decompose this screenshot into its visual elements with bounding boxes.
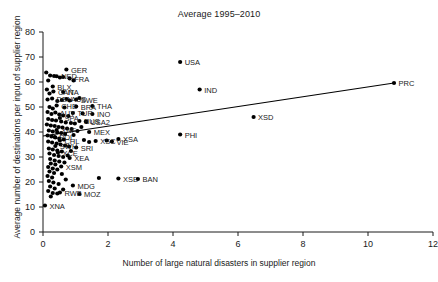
data-point xyxy=(49,112,53,116)
data-point xyxy=(53,162,57,166)
data-point xyxy=(53,158,57,162)
data-point xyxy=(49,123,53,127)
data-point xyxy=(50,175,54,179)
data-point xyxy=(178,132,182,136)
y-tick-label: 80 xyxy=(25,27,35,37)
data-point-label: RWB xyxy=(64,189,81,198)
data-point xyxy=(47,91,51,95)
data-point xyxy=(52,171,56,175)
data-point xyxy=(50,96,54,100)
y-tick-label: 60 xyxy=(25,77,35,87)
data-point-label: PHI xyxy=(185,131,198,140)
data-point xyxy=(82,138,86,142)
data-point-label: XSM xyxy=(66,163,82,172)
data-point-label: XSD xyxy=(258,113,274,122)
data-point xyxy=(47,151,51,155)
data-point xyxy=(53,135,57,139)
data-point xyxy=(50,140,54,144)
data-point xyxy=(48,184,52,188)
x-tick-label: 8 xyxy=(300,239,305,249)
x-tick-label: 0 xyxy=(40,239,45,249)
data-point xyxy=(392,81,396,85)
data-point xyxy=(44,70,48,74)
data-point xyxy=(60,172,64,176)
data-point xyxy=(57,159,61,163)
data-point xyxy=(97,176,101,180)
data-point xyxy=(64,177,68,181)
y-axis-label: Average number of destinations per input… xyxy=(12,7,22,247)
data-point xyxy=(51,106,55,110)
data-point xyxy=(46,117,50,121)
data-point xyxy=(116,176,120,180)
data-point xyxy=(45,97,49,101)
data-point xyxy=(57,182,61,186)
x-tick-label: 2 xyxy=(105,239,110,249)
data-point xyxy=(53,186,57,190)
data-point-label: XSC xyxy=(100,137,116,146)
data-point xyxy=(59,164,63,168)
data-point xyxy=(47,169,51,173)
y-tick-label: 70 xyxy=(25,52,35,62)
data-point-label: SPA xyxy=(64,114,78,123)
data-point xyxy=(54,118,58,122)
data-point xyxy=(43,203,47,207)
data-point-label: SRI xyxy=(81,144,94,153)
data-point xyxy=(53,110,57,114)
y-tick-label: 40 xyxy=(25,127,35,137)
data-point xyxy=(55,128,59,132)
data-point xyxy=(198,87,202,91)
x-tick-label: 6 xyxy=(235,239,240,249)
data-point xyxy=(47,128,51,132)
data-point xyxy=(46,189,50,193)
data-point xyxy=(45,110,49,114)
data-point xyxy=(47,179,51,183)
data-point xyxy=(57,154,61,158)
data-point xyxy=(51,89,55,93)
data-point-label: XNA xyxy=(49,202,64,211)
data-point xyxy=(45,133,49,137)
data-point xyxy=(45,122,49,126)
data-point xyxy=(64,67,68,71)
data-point xyxy=(47,146,51,150)
data-point-label: MOZ xyxy=(84,190,101,199)
data-point xyxy=(79,125,83,129)
y-tick-label: 10 xyxy=(25,202,35,212)
y-tick-label: 20 xyxy=(25,177,35,187)
data-point-label: BAN xyxy=(142,175,157,184)
data-point xyxy=(45,87,49,91)
data-point xyxy=(46,78,50,82)
data-point-label: XSA xyxy=(123,135,138,144)
y-tick-label: 30 xyxy=(25,152,35,162)
data-point xyxy=(58,190,62,194)
data-point xyxy=(46,165,50,169)
data-point xyxy=(48,157,52,161)
scatter-plot-figure: Average 1995–2010 0246810120102030405060… xyxy=(0,0,438,282)
data-point xyxy=(51,166,55,170)
data-point xyxy=(50,118,54,122)
data-point-label: XSE xyxy=(123,175,138,184)
data-point xyxy=(52,153,56,157)
data-point xyxy=(252,115,256,119)
data-point xyxy=(94,139,98,143)
plot-canvas: 02468101201020304050607080 GERNEDFRABLXC… xyxy=(0,0,438,282)
data-point-label: FRA xyxy=(74,75,89,84)
data-point xyxy=(87,130,91,134)
data-point xyxy=(49,161,53,165)
data-point xyxy=(51,84,55,88)
x-tick-label: 10 xyxy=(363,239,373,249)
y-tick-label: 0 xyxy=(30,227,35,237)
data-point xyxy=(46,139,50,143)
data-point xyxy=(55,103,59,107)
x-tick-label: 12 xyxy=(428,239,438,249)
data-point-label: MEX xyxy=(94,128,110,137)
data-point xyxy=(45,174,49,178)
data-point-label: PRC xyxy=(399,79,415,88)
data-point xyxy=(49,194,53,198)
data-point xyxy=(48,73,52,77)
data-point xyxy=(71,183,75,187)
data-point-labels-group: GERNEDFRABLXCANITADENAUSSWECHEBRATHAAUTT… xyxy=(49,58,414,211)
x-tick-label: 4 xyxy=(170,239,175,249)
x-axis-label: Number of large natural disasters in sup… xyxy=(0,258,438,268)
axes-group: 02468101201020304050607080 xyxy=(25,27,438,249)
data-point xyxy=(55,167,59,171)
